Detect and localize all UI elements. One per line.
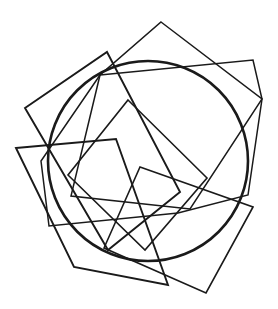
geometric-line-drawing [0,0,278,309]
figure-canvas [0,0,278,309]
